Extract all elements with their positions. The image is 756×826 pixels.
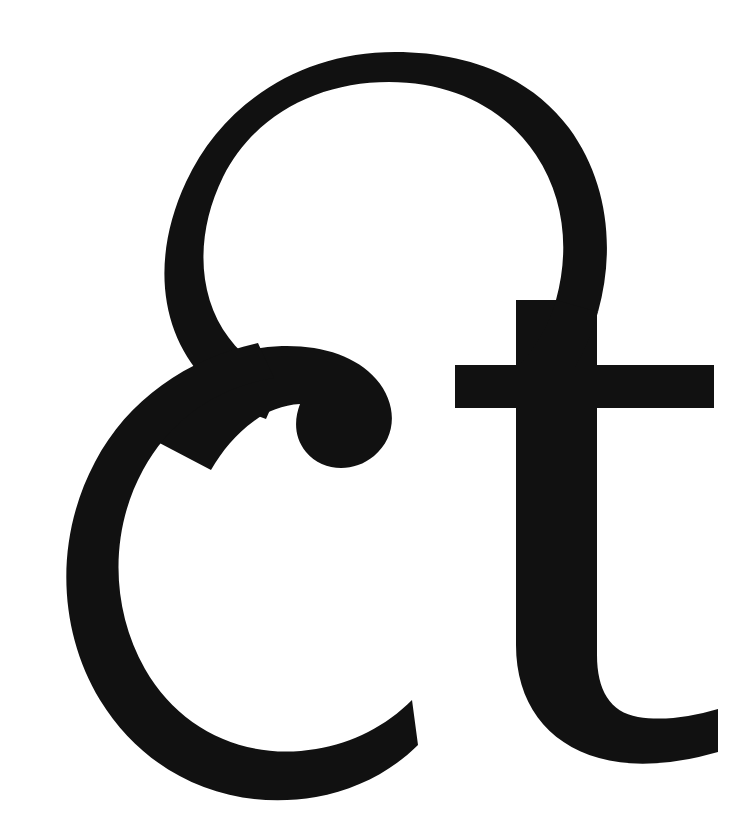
- et-ligature-svg: et: [0, 0, 756, 826]
- glyph-canvas: et et-ligature Large black italic et-lig…: [0, 0, 756, 826]
